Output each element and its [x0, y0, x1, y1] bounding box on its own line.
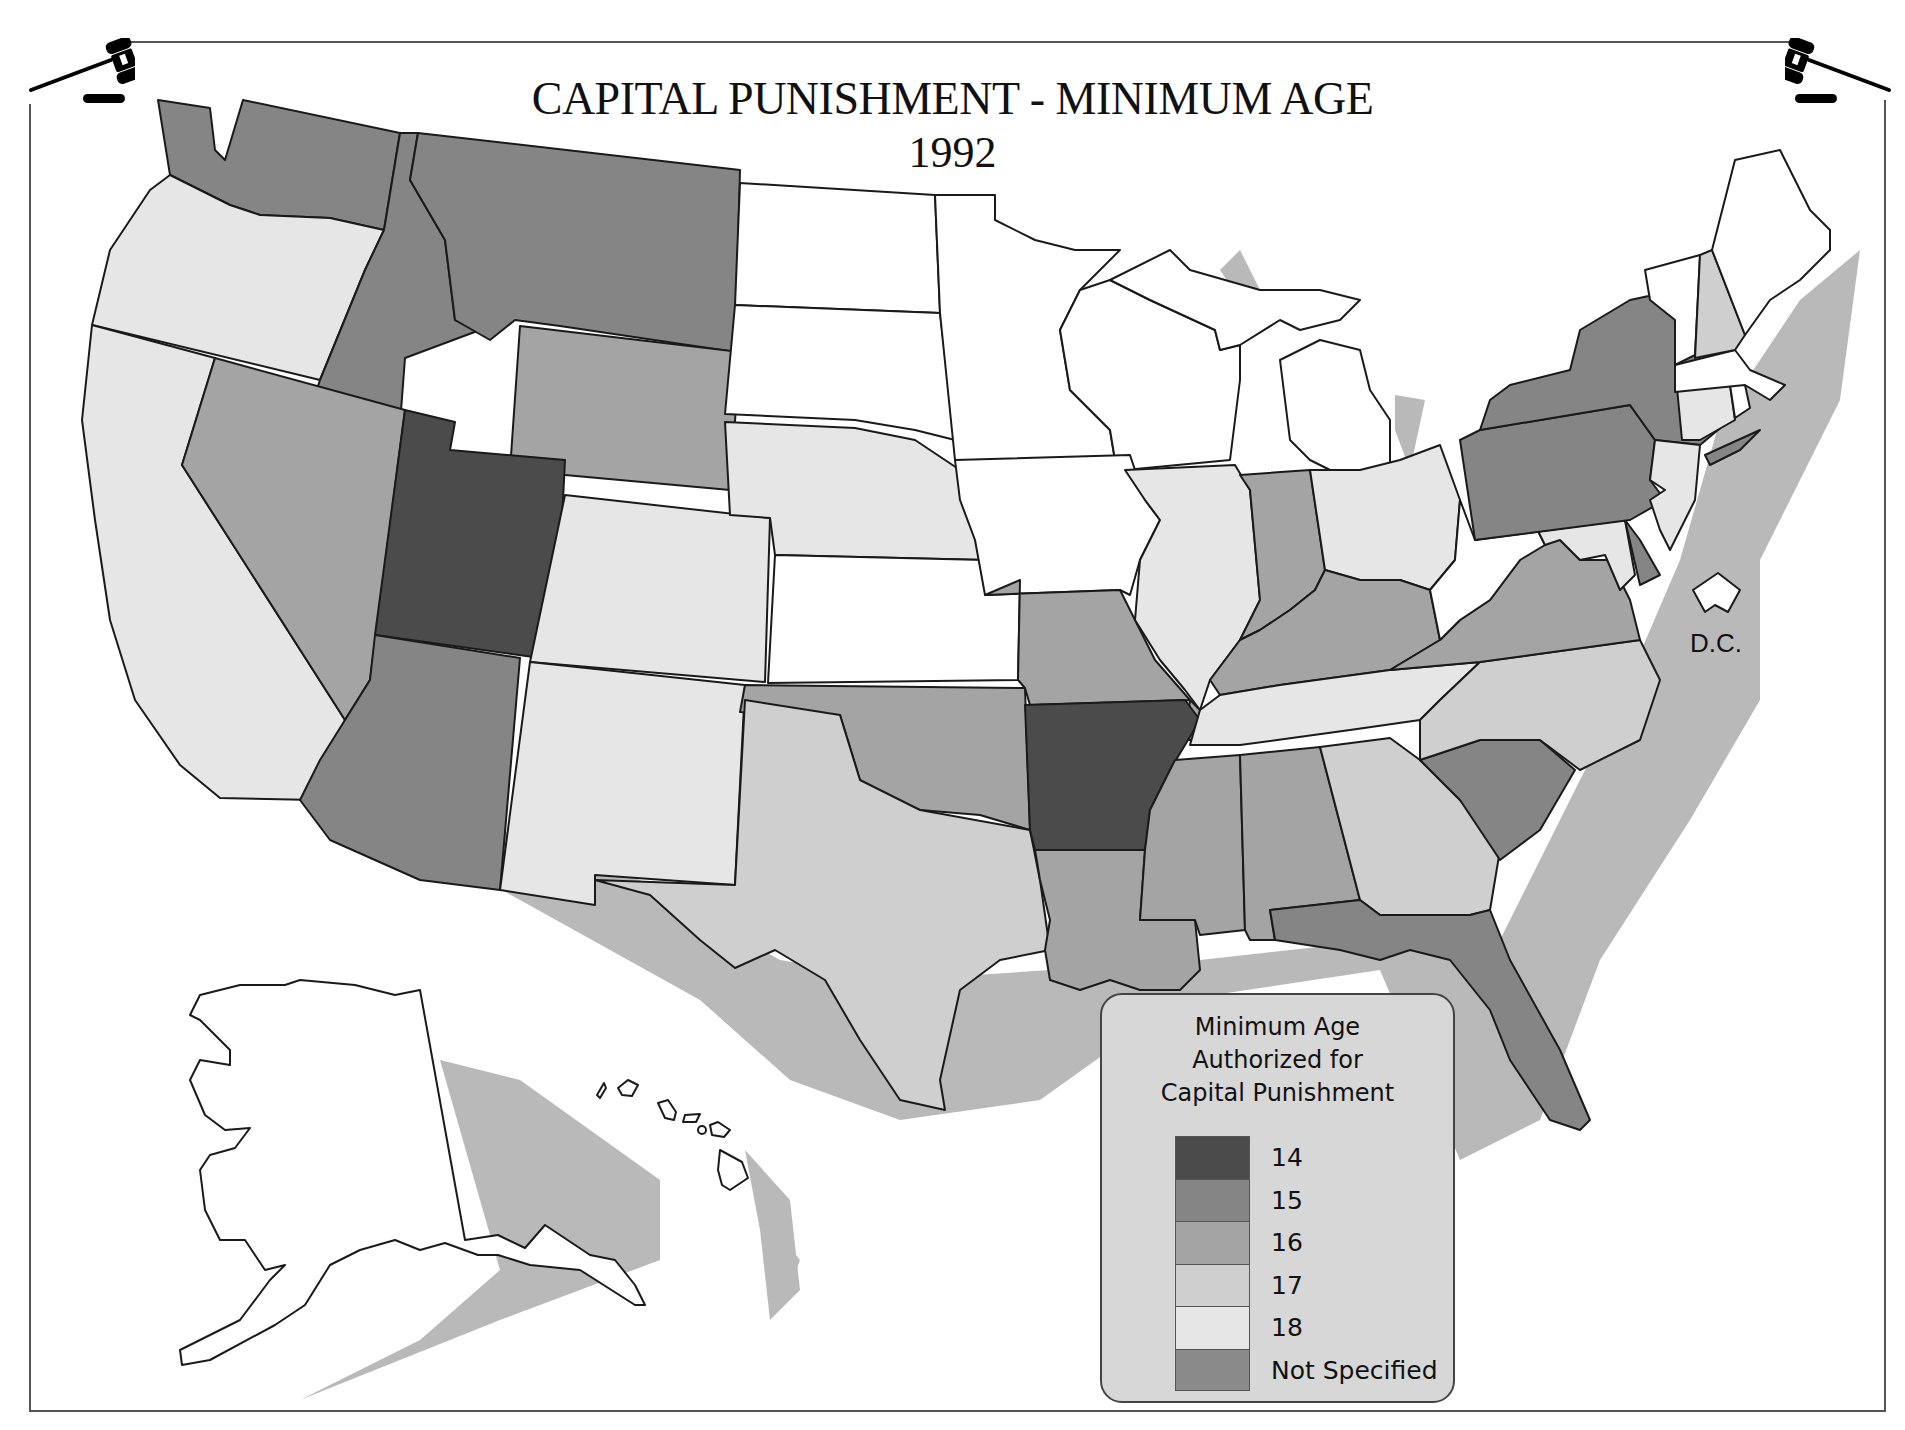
legend-label: 18: [1271, 1313, 1303, 1342]
legend-title-line: Minimum Age: [1102, 1011, 1453, 1044]
legend-title-line: Authorized for: [1102, 1044, 1453, 1077]
state-hi-6: [710, 1122, 730, 1137]
state-co: [530, 495, 770, 682]
legend-swatch: [1175, 1221, 1250, 1264]
legend-swatch: [1175, 1349, 1250, 1392]
legend-title: Minimum Age Authorized for Capital Punis…: [1102, 1011, 1453, 1110]
legend-swatch: [1175, 1264, 1250, 1307]
legend-swatch: [1175, 1306, 1250, 1349]
legend: Minimum Age Authorized for Capital Punis…: [1100, 993, 1455, 1403]
state-nm: [500, 662, 745, 905]
legend-label: 14: [1271, 1143, 1303, 1172]
state-hi-2: [618, 1080, 638, 1096]
legend-label: 15: [1271, 1186, 1303, 1215]
legend-title-line: Capital Punishment: [1102, 1077, 1453, 1110]
state-hi-3: [658, 1100, 676, 1120]
states: [82, 100, 1830, 1365]
state-hi-1: [597, 1083, 606, 1098]
state-sd: [725, 305, 955, 440]
state-mt: [410, 133, 740, 352]
legend-swatch: [1175, 1136, 1250, 1179]
legend-label: 17: [1271, 1271, 1303, 1300]
state-hi-5: [698, 1126, 706, 1134]
state-hi-7: [718, 1150, 748, 1190]
state-hi-4: [683, 1114, 700, 1122]
legend-label: 16: [1271, 1228, 1303, 1257]
legend-swatch: [1175, 1179, 1250, 1222]
state-nd: [735, 183, 940, 313]
dc-label: D.C.: [1690, 628, 1742, 659]
legend-label: Not Specified: [1271, 1356, 1438, 1385]
us-map: [0, 0, 1905, 1430]
